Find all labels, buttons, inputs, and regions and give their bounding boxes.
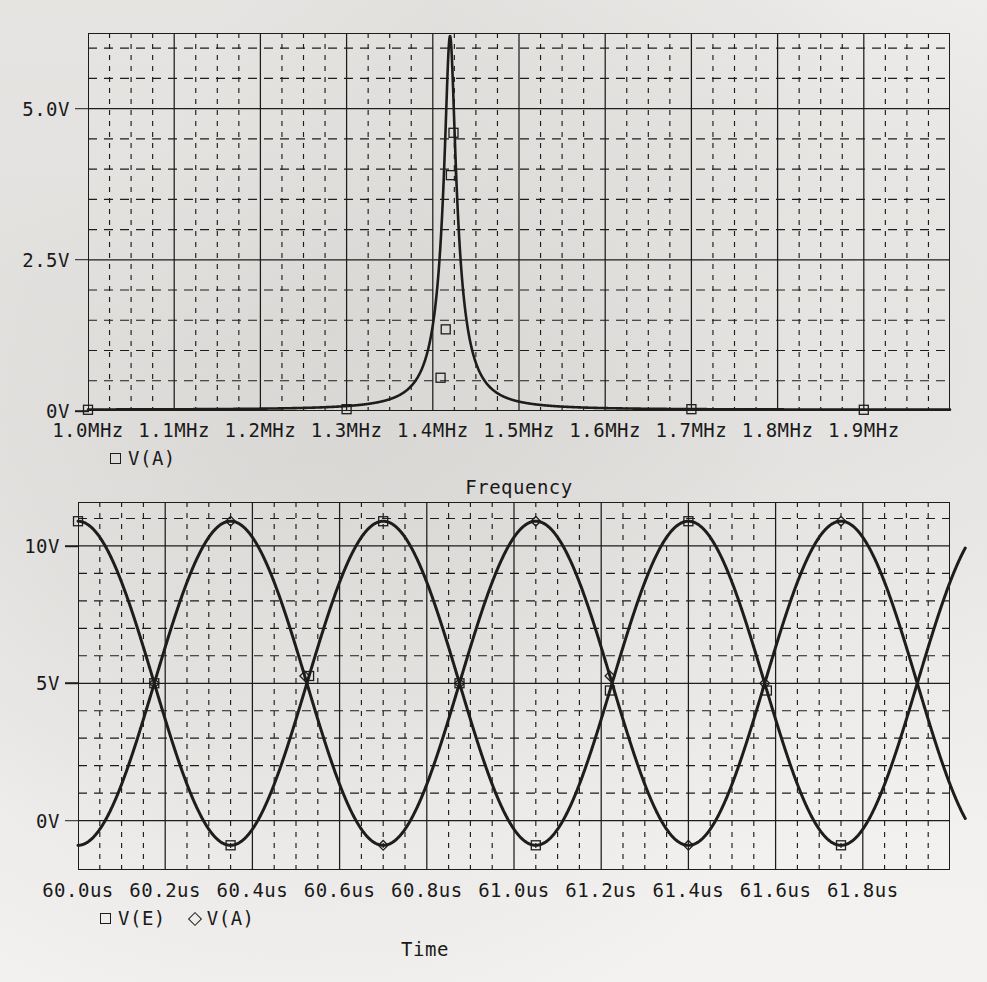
x-tick-label: 1.8MHz — [742, 421, 814, 440]
x-axis-labels-transient: 60.0us60.2us60.4us60.6us60.8us61.0us61.2… — [0, 881, 987, 905]
x-axis-title-frequency: Frequency — [465, 478, 572, 497]
legend-item-va[interactable]: V(A) — [190, 909, 255, 928]
y-tick-label: 2.5V — [0, 250, 70, 269]
x-tick-label: 60.6us — [304, 881, 376, 900]
x-tick-label: 61.2us — [565, 881, 637, 900]
legend-item-va[interactable]: V(A) — [110, 449, 176, 468]
legend-item-ve[interactable]: V(E) — [100, 909, 166, 928]
grid-transient — [78, 502, 950, 870]
x-axis-labels-ac-sweep: 1.0MHz1.1MHz1.2MHz1.3MHz1.4MHz1.5MHz1.6M… — [0, 421, 987, 445]
x-tick-label: 61.0us — [478, 881, 550, 900]
y-tick-mark — [75, 410, 89, 412]
legend-label: V(A) — [207, 909, 255, 928]
x-tick-label: 1.5MHz — [483, 421, 555, 440]
y-tick-label: 10V — [0, 536, 60, 555]
y-tick-mark — [65, 820, 79, 822]
x-tick-label: 1.3MHz — [311, 421, 383, 440]
x-tick-label: 1.9MHz — [828, 421, 900, 440]
legend-label: V(A) — [128, 449, 176, 468]
x-tick-label: 61.8us — [827, 881, 899, 900]
x-tick-label: 1.2MHz — [225, 421, 297, 440]
chart-transient[interactable]: 0V5V10V 60.0us60.2us60.4us60.6us60.8us61… — [0, 500, 987, 982]
y-tick-mark — [65, 682, 79, 684]
diamond-marker-icon — [188, 911, 202, 925]
y-tick-label: 0V — [0, 402, 70, 421]
legend-transient[interactable]: V(E)V(A) — [100, 909, 271, 928]
legend-label: V(E) — [118, 909, 166, 928]
chart-ac-sweep[interactable]: 0V2.5V5.0V 1.0MHz1.1MHz1.2MHz1.3MHz1.4MH… — [0, 0, 987, 500]
grid-ac-sweep — [88, 33, 950, 411]
square-marker-icon — [100, 913, 111, 924]
x-tick-label: 61.4us — [653, 881, 725, 900]
x-tick-label: 61.6us — [740, 881, 812, 900]
y-tick-mark — [65, 545, 79, 547]
x-tick-label: 1.1MHz — [138, 421, 210, 440]
y-tick-label: 5.0V — [0, 99, 70, 118]
x-tick-label: 60.4us — [217, 881, 289, 900]
x-tick-label: 60.8us — [391, 881, 463, 900]
legend-ac-sweep[interactable]: V(A) — [110, 449, 192, 468]
x-tick-label: 60.0us — [42, 881, 114, 900]
y-tick-mark — [75, 108, 89, 110]
x-axis-title-time: Time — [401, 940, 449, 959]
x-tick-label: 1.6MHz — [569, 421, 641, 440]
x-tick-label: 1.7MHz — [656, 421, 728, 440]
x-tick-label: 1.4MHz — [397, 421, 469, 440]
plot-stack: 0V2.5V5.0V 1.0MHz1.1MHz1.2MHz1.3MHz1.4MH… — [0, 0, 987, 982]
square-marker-icon — [110, 453, 121, 464]
x-tick-label: 60.2us — [129, 881, 201, 900]
y-tick-mark — [75, 259, 89, 261]
y-tick-label: 5V — [0, 674, 60, 693]
y-tick-label: 0V — [0, 811, 60, 830]
x-tick-label: 1.0MHz — [52, 421, 124, 440]
